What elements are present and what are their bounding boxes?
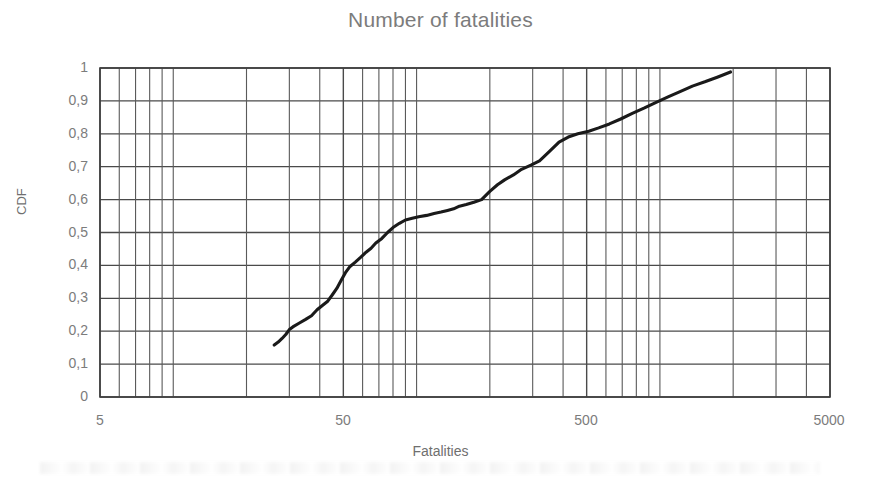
scan-artifact (40, 462, 820, 474)
chart-figure: Number of fatalities CDF Fatalities 1 0,… (0, 0, 881, 480)
horizontal-gridlines (100, 68, 830, 397)
plot-canvas (0, 0, 881, 480)
